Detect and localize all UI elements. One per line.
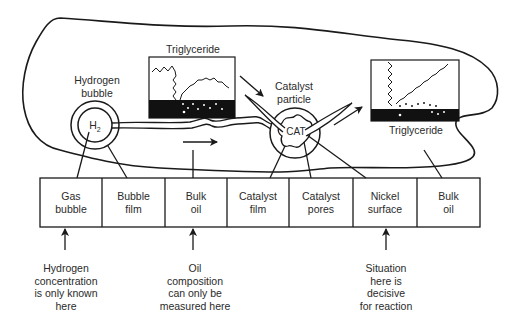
h2-text: H — [89, 119, 97, 131]
triglyceride-inset-1 — [149, 57, 235, 118]
catalyst-particle-label: Catalyst particle — [266, 80, 322, 105]
label-line: CAT — [282, 126, 310, 139]
label-line: Triglyceride — [372, 124, 460, 137]
stage-line: Catalyst — [239, 190, 277, 203]
label-line: bubble — [68, 87, 126, 100]
stage-line: film — [239, 203, 277, 216]
note-line: can only be — [145, 287, 245, 300]
note-line: for reaction — [338, 300, 434, 313]
label-line: particle — [266, 93, 322, 106]
note-line: measured here — [145, 300, 245, 313]
stage-line: Catalyst — [302, 190, 340, 203]
h2-label: H2 — [84, 119, 106, 137]
stage-line: oil — [438, 203, 458, 216]
stage-line: film — [117, 203, 150, 216]
stage-bulk-oil-1: Bulkoil — [165, 178, 227, 227]
stage-line: Bulk — [186, 190, 206, 203]
stage-line: Gas — [55, 190, 87, 203]
label-line: Hydrogen — [68, 74, 126, 87]
note-decisive-situation: Situation here is decisive for reaction — [338, 262, 434, 312]
label-line: Catalyst — [266, 80, 322, 93]
incoming-arrow-icon — [240, 76, 263, 96]
note-line: composition — [145, 275, 245, 288]
note-line: is only known — [18, 287, 114, 300]
stage-line: pores — [302, 203, 340, 216]
stage-line: Bubble — [117, 190, 150, 203]
stage-line: Bulk — [438, 190, 458, 203]
stage-line: surface — [368, 203, 402, 216]
stage-catalyst-film: Catalystfilm — [227, 178, 289, 227]
note-oil-composition: Oil composition can only be measured her… — [145, 262, 245, 312]
stage-gas-bubble: Gasbubble — [40, 178, 102, 227]
stage-line: oil — [186, 203, 206, 216]
note-line: Oil — [145, 262, 245, 275]
triglyceride-inset-2 — [371, 60, 459, 121]
note-line: Hydrogen — [18, 262, 114, 275]
triglyceride-top-label: Triglyceride — [150, 43, 236, 56]
triglyceride-right-label: Triglyceride — [372, 124, 460, 137]
note-arrows — [65, 229, 386, 250]
note-hydrogen-concentration: Hydrogen concentration is only known her… — [18, 262, 114, 312]
note-line: Situation — [338, 262, 434, 275]
h2-subscript: 2 — [97, 126, 101, 133]
stage-catalyst-pores: Catalystpores — [289, 178, 353, 227]
stage-bubble-film: Bubblefilm — [102, 178, 165, 227]
label-line: Triglyceride — [150, 43, 236, 56]
note-line: here is — [338, 275, 434, 288]
cat-label: CAT — [282, 126, 310, 139]
stage-line: bubble — [55, 203, 87, 216]
stage-line: Nickel — [368, 190, 402, 203]
hydrogen-bubble-label: Hydrogen bubble — [68, 74, 126, 99]
stage-bulk-oil-2: Bulkoil — [417, 178, 480, 227]
diffusion-channel — [112, 117, 280, 133]
note-line: decisive — [338, 287, 434, 300]
note-line: concentration — [18, 275, 114, 288]
stage-nickel-surface: Nickelsurface — [353, 178, 417, 227]
note-line: here — [18, 300, 114, 313]
